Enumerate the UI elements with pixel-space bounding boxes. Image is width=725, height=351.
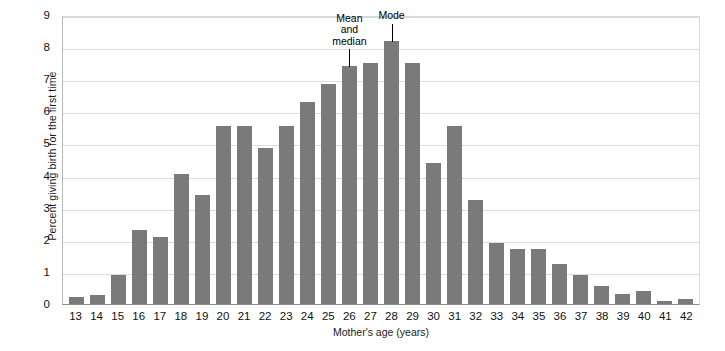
bar-slot bbox=[171, 17, 192, 304]
x-axis-tick-labels: 1314151617181920212223242526272829303132… bbox=[62, 307, 700, 327]
x-axis-tick-label: 39 bbox=[613, 307, 634, 327]
x-axis-tick-label: 40 bbox=[634, 307, 655, 327]
x-axis-tick-label: 27 bbox=[360, 307, 381, 327]
bar[interactable] bbox=[447, 126, 461, 304]
x-axis-tick-label: 24 bbox=[297, 307, 318, 327]
bar[interactable] bbox=[657, 301, 671, 304]
bar[interactable] bbox=[69, 297, 83, 304]
x-axis-tick-label: 20 bbox=[212, 307, 233, 327]
bar[interactable] bbox=[489, 243, 503, 304]
bar[interactable] bbox=[174, 174, 188, 304]
x-axis-tick-label: 32 bbox=[465, 307, 486, 327]
x-axis-tick-label: 25 bbox=[318, 307, 339, 327]
bar-slot bbox=[255, 17, 276, 304]
bar[interactable] bbox=[636, 291, 650, 304]
bar[interactable] bbox=[405, 63, 419, 304]
x-axis-tick-label: 18 bbox=[170, 307, 191, 327]
annotation-leader-mean-median bbox=[349, 49, 350, 67]
bar[interactable] bbox=[678, 299, 692, 304]
bar[interactable] bbox=[573, 275, 587, 304]
annotation-leader-mode bbox=[392, 24, 393, 42]
y-axis-tick-label: 3 bbox=[44, 203, 50, 215]
bar-slot bbox=[486, 17, 507, 304]
y-axis-tick-label: 4 bbox=[44, 171, 50, 183]
x-axis-tick-label: 26 bbox=[339, 307, 360, 327]
bar[interactable] bbox=[153, 237, 167, 304]
bar[interactable] bbox=[321, 84, 335, 304]
x-axis-tick-label: 38 bbox=[592, 307, 613, 327]
bar[interactable] bbox=[342, 66, 356, 304]
bar[interactable] bbox=[195, 195, 209, 304]
x-axis-tick-label: 29 bbox=[402, 307, 423, 327]
bar[interactable] bbox=[468, 200, 482, 304]
x-axis-tick-label: 28 bbox=[381, 307, 402, 327]
plot-area bbox=[62, 16, 700, 305]
x-axis-tick-label: 34 bbox=[507, 307, 528, 327]
y-axis-tick-label: 7 bbox=[44, 74, 50, 86]
bar-slot bbox=[297, 17, 318, 304]
bar-slot bbox=[612, 17, 633, 304]
bar[interactable] bbox=[216, 126, 230, 304]
bar-slot bbox=[654, 17, 675, 304]
x-axis-tick-label: 35 bbox=[528, 307, 549, 327]
bar-slot bbox=[318, 17, 339, 304]
bar[interactable] bbox=[237, 126, 251, 304]
y-axis-tick-label: 8 bbox=[44, 42, 50, 54]
x-axis-tick-label: 21 bbox=[234, 307, 255, 327]
bar-slot bbox=[234, 17, 255, 304]
bar[interactable] bbox=[594, 286, 608, 304]
y-axis-tick-label: 2 bbox=[44, 235, 50, 247]
x-axis-tick-label: 22 bbox=[255, 307, 276, 327]
x-axis-tick-label: 37 bbox=[571, 307, 592, 327]
bar-slot bbox=[192, 17, 213, 304]
bar[interactable] bbox=[300, 102, 314, 304]
bar-slot bbox=[276, 17, 297, 304]
x-axis-tick-label: 41 bbox=[655, 307, 676, 327]
x-axis-tick-label: 14 bbox=[86, 307, 107, 327]
bar-slot bbox=[108, 17, 129, 304]
bar[interactable] bbox=[132, 230, 146, 304]
y-axis-tick-label: 0 bbox=[44, 299, 50, 311]
x-axis-tick-label: 16 bbox=[128, 307, 149, 327]
bar[interactable] bbox=[426, 163, 440, 304]
x-axis-title: Mother's age (years) bbox=[62, 326, 700, 338]
x-axis-tick-label: 17 bbox=[149, 307, 170, 327]
bar-slot bbox=[675, 17, 696, 304]
bar-slot bbox=[129, 17, 150, 304]
x-axis-tick-label: 36 bbox=[549, 307, 570, 327]
y-axis-tick-labels: 0123456789 bbox=[0, 0, 58, 351]
bar[interactable] bbox=[111, 275, 125, 304]
bar[interactable] bbox=[531, 249, 545, 304]
bar-slot bbox=[570, 17, 591, 304]
bar[interactable] bbox=[258, 148, 272, 304]
bar-chart-figure: Percent giving birth for the first time … bbox=[0, 0, 725, 351]
bar[interactable] bbox=[510, 249, 524, 304]
bar-slot bbox=[381, 17, 402, 304]
y-axis-tick-label: 6 bbox=[44, 107, 50, 119]
bar-slot bbox=[549, 17, 570, 304]
bar-series bbox=[63, 17, 699, 304]
y-axis-tick-label: 5 bbox=[44, 139, 50, 151]
x-axis-tick-label: 33 bbox=[486, 307, 507, 327]
bar-slot bbox=[402, 17, 423, 304]
x-axis-tick-label: 31 bbox=[444, 307, 465, 327]
x-axis-tick-label: 19 bbox=[191, 307, 212, 327]
bar-slot bbox=[444, 17, 465, 304]
annotation-mode: Mode bbox=[347, 10, 437, 22]
y-axis-tick-label: 1 bbox=[44, 267, 50, 279]
bar[interactable] bbox=[90, 295, 104, 304]
x-axis-tick-label: 15 bbox=[107, 307, 128, 327]
bar[interactable] bbox=[552, 264, 566, 304]
bar-slot bbox=[507, 17, 528, 304]
x-axis-tick-label: 13 bbox=[65, 307, 86, 327]
bar[interactable] bbox=[279, 126, 293, 304]
x-axis-tick-label: 23 bbox=[276, 307, 297, 327]
x-axis-tick-label: 42 bbox=[676, 307, 697, 327]
bar[interactable] bbox=[363, 63, 377, 304]
bar[interactable] bbox=[384, 41, 398, 304]
bar-slot bbox=[633, 17, 654, 304]
bar[interactable] bbox=[615, 294, 629, 304]
bar-slot bbox=[87, 17, 108, 304]
x-axis-tick-label: 30 bbox=[423, 307, 444, 327]
bar-slot bbox=[465, 17, 486, 304]
